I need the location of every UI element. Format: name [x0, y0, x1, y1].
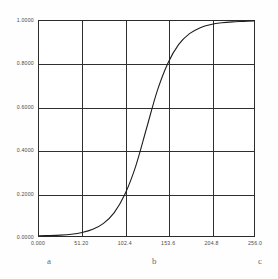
annotation-a: a [47, 256, 51, 266]
annotation-b: b [152, 256, 157, 266]
y-tick-label: 0.6000 [17, 104, 34, 110]
x-axis-tick-labels: 0.00051.20102.4153.6204.8256.0 [0, 240, 278, 250]
x-tick-label: 204.8 [204, 240, 218, 246]
y-tick-label: 1.0000 [17, 17, 34, 23]
y-tick-label: 0.4000 [17, 147, 34, 153]
x-tick-label: 256.0 [248, 240, 262, 246]
sigmoid-curve [39, 21, 254, 236]
x-tick-label: 102.4 [118, 240, 132, 246]
y-tick-label: 0.2000 [17, 191, 34, 197]
y-tick-label: 0.8000 [17, 60, 34, 66]
chart-figure: 0.00000.20000.40000.60000.80001.0000 0.0… [0, 0, 278, 279]
annotation-c: c [258, 256, 262, 266]
x-tick-label: 51.20 [74, 240, 88, 246]
plot-area [38, 20, 255, 237]
x-tick-label: 0.000 [31, 240, 45, 246]
curve-svg [39, 21, 254, 236]
axis-annotations: abc [0, 256, 278, 274]
x-tick-label: 153.6 [161, 240, 175, 246]
y-axis-tick-labels: 0.00000.20000.40000.60000.80001.0000 [0, 20, 34, 237]
